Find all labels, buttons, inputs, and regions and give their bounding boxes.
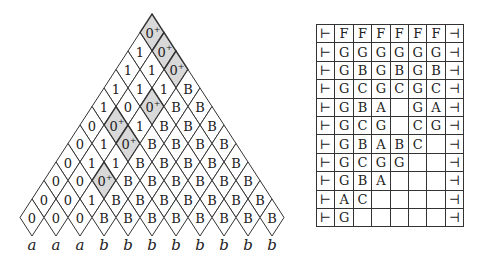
table-cell: G (353, 43, 371, 61)
diamond-value: 1 (148, 63, 156, 78)
table-cell: ⊣ (445, 153, 463, 171)
table-cell: ⊣ (445, 80, 463, 98)
diamond-value: B (147, 137, 157, 152)
table-cell: G (372, 61, 390, 79)
diamond-value: B (135, 193, 145, 208)
diamond-value: 0 (76, 137, 84, 152)
symbol-grid-table: ⊢FFFFFF⊣⊢GGGGGG⊣⊢GBGBGB⊣⊢GCGCGC⊣⊢GBAGA⊣⊢… (316, 24, 464, 227)
table-cell: G (372, 153, 390, 171)
diamond-value: B (171, 137, 181, 152)
table-cell: ⊢ (317, 80, 335, 98)
table-cell: G (408, 80, 426, 98)
diamond-value: B (183, 82, 193, 97)
table-cell (353, 208, 371, 226)
table-cell: ⊢ (317, 135, 335, 153)
diamond-value: B (207, 156, 217, 171)
diamond-value: 0 (40, 193, 48, 208)
table-cell: ⊣ (445, 43, 463, 61)
table-cell: ⊢ (317, 208, 335, 226)
diamond-value: B (267, 211, 277, 226)
table-cell: ⊣ (445, 116, 463, 134)
diamond-value: 0 (64, 193, 72, 208)
table-cell: ⊢ (317, 25, 335, 43)
column-label: b (99, 236, 109, 254)
table-cell: F (427, 25, 445, 43)
diamond-value: 0 (88, 119, 96, 134)
table-cell: ⊢ (317, 190, 335, 208)
table-cell (427, 172, 445, 190)
diamond-value: B (171, 211, 181, 226)
table-cell: B (353, 61, 371, 79)
table-cell: ⊣ (445, 208, 463, 226)
table-cell: ⊢ (317, 98, 335, 116)
column-label: b (147, 236, 157, 254)
table-cell (372, 208, 390, 226)
diamond-value: B (171, 100, 181, 115)
diamond-value: 0 (124, 100, 132, 115)
table-cell: G (427, 43, 445, 61)
diamond-value: B (135, 156, 145, 171)
diamond-value: B (219, 174, 229, 189)
diamond-value: B (243, 211, 253, 226)
diamond-value: B (243, 174, 253, 189)
table-cell: F (408, 25, 426, 43)
column-label: a (52, 236, 61, 254)
diamond-value: B (195, 100, 205, 115)
diamond-value: 0 (64, 156, 72, 171)
table-cell (372, 190, 390, 208)
diamond-value: B (147, 174, 157, 189)
table-cell (427, 208, 445, 226)
table-cell (390, 116, 408, 134)
table-cell: C (390, 80, 408, 98)
table-cell (390, 190, 408, 208)
table-cell: G (372, 80, 390, 98)
table-cell: G (335, 153, 353, 171)
table-cell: A (335, 190, 353, 208)
table-row: ⊢AC⊣ (317, 190, 464, 208)
table-cell: ⊢ (317, 172, 335, 190)
table-cell (408, 172, 426, 190)
table-cell: G (335, 172, 353, 190)
table-cell: A (372, 98, 390, 116)
table-row: ⊢GCGG⊣ (317, 153, 464, 171)
column-label: b (195, 236, 205, 254)
diamond-value: B (123, 174, 133, 189)
table-row: ⊢FFFFFF⊣ (317, 25, 464, 43)
diamond-value: 1 (88, 193, 96, 208)
column-label: a (76, 236, 85, 254)
column-label: b (123, 236, 133, 254)
table-cell: C (353, 116, 371, 134)
column-label: b (219, 236, 229, 254)
diamond-value: B (231, 156, 241, 171)
table-cell: G (372, 43, 390, 61)
column-label: b (171, 236, 181, 254)
diamond-value: B (123, 211, 133, 226)
table-cell: G (335, 98, 353, 116)
column-label: b (243, 236, 253, 254)
table-cell: A (372, 135, 390, 153)
column-label: b (267, 236, 277, 254)
table-cell: ⊣ (445, 25, 463, 43)
diamond-value: B (231, 193, 241, 208)
table-cell: C (353, 153, 371, 171)
diamond-triangle-diagram: 0+10+110+111B100+BB00+1BBB010+BBBB011BBB… (0, 0, 300, 258)
diamond-value: B (171, 174, 181, 189)
table-cell: B (353, 172, 371, 190)
diamond-value: B (183, 156, 193, 171)
diamond-value: 1 (136, 45, 144, 60)
table-row: ⊢GBA⊣ (317, 172, 464, 190)
table-row: ⊢G⊣ (317, 208, 464, 226)
table-row: ⊢GCGCG⊣ (317, 116, 464, 134)
table-cell: ⊣ (445, 61, 463, 79)
diamond-value: B (219, 211, 229, 226)
table-cell: G (390, 43, 408, 61)
diamond-value: B (111, 193, 121, 208)
table-row: ⊢GGGGGG⊣ (317, 43, 464, 61)
diamond-value: 0 (76, 174, 84, 189)
table-row: ⊢GBABC⊣ (317, 135, 464, 153)
table-cell: G (335, 61, 353, 79)
diamond-value: 0 (28, 211, 36, 226)
table-cell: ⊣ (445, 98, 463, 116)
table-row: ⊢GCGCGC⊣ (317, 80, 464, 98)
diamond-value: 1 (88, 156, 96, 171)
